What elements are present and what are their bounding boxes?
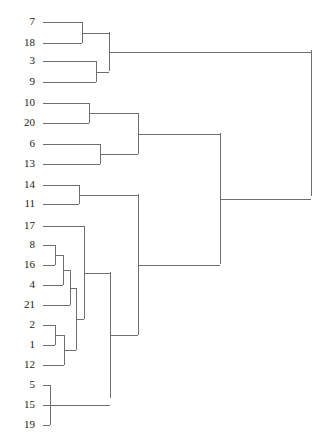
leaf-label-7: 7 [30, 15, 36, 27]
leaf-label-20: 20 [24, 116, 36, 128]
dendrogram-figure: 718391020613141117816421211251519 [0, 0, 331, 447]
leaf-label-18: 18 [24, 36, 36, 48]
leaf-label-17: 17 [24, 219, 36, 231]
leaf-label-5: 5 [30, 378, 36, 390]
leaf-label-10: 10 [24, 96, 36, 108]
leaf-label-2: 2 [30, 318, 36, 330]
leaf-label-6: 6 [30, 137, 36, 149]
leaf-label-3: 3 [30, 54, 36, 66]
leaf-label-19: 19 [24, 418, 36, 430]
leaf-label-8: 8 [30, 238, 36, 250]
leaf-label-14: 14 [24, 178, 36, 190]
leaf-labels-group: 718391020613141117816421211251519 [24, 15, 36, 430]
leaf-label-1: 1 [30, 338, 36, 350]
leaf-label-15: 15 [24, 398, 36, 410]
leaf-label-9: 9 [30, 75, 36, 87]
leaf-label-13: 13 [24, 157, 36, 169]
leaf-label-12: 12 [24, 358, 35, 370]
leaf-label-11: 11 [24, 197, 35, 209]
dendrogram-links-group [43, 22, 312, 426]
dendrogram-canvas: 718391020613141117816421211251519 [0, 0, 331, 447]
leaf-label-16: 16 [24, 258, 36, 270]
leaf-label-21: 21 [24, 298, 35, 310]
leaf-label-4: 4 [30, 278, 36, 290]
